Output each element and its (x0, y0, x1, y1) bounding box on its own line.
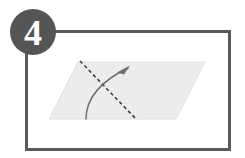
step-number-label: 4 (24, 13, 42, 53)
step-diagram-container: 4 (0, 0, 245, 158)
diagram-canvas: 4 (0, 0, 245, 158)
